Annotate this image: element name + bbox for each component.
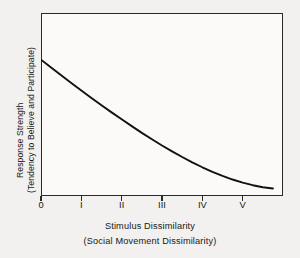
response-decay-curve <box>41 13 283 196</box>
x-tick-label: V <box>240 199 246 210</box>
x-tick-label: 0 <box>38 199 43 210</box>
x-tick-label: I <box>80 199 83 210</box>
x-tick-label: III <box>158 199 166 210</box>
curve-path <box>41 60 273 189</box>
chart-figure: Response Strength (Tendency to Believe a… <box>0 0 300 258</box>
x-axis-title: Stimulus Dissimilarity <box>0 221 300 231</box>
y-axis-subtitle: (Tendency to Believe and Participate) <box>26 47 36 193</box>
x-axis-subtitle: (Social Movement Dissimilarity) <box>0 236 300 246</box>
x-tick-label: II <box>119 199 124 210</box>
x-tick-label: IV <box>198 199 207 210</box>
y-axis-title: Response Strength <box>15 103 25 178</box>
